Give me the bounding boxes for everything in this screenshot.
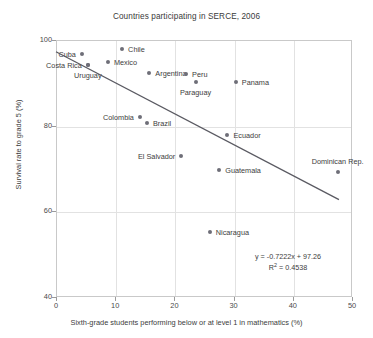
y-tick-label: 80 bbox=[0, 121, 52, 130]
x-tick-mark bbox=[352, 297, 353, 301]
regression-equation: y = -0.7222x + 97.26 bbox=[228, 252, 348, 262]
x-tick-mark bbox=[174, 297, 175, 301]
y-axis-label: Survival rate to grade 5 (%) bbox=[14, 65, 23, 225]
x-tick-mark bbox=[115, 297, 116, 301]
x-tick-label: 10 bbox=[100, 301, 130, 310]
r-squared-number: = 0.4538 bbox=[277, 264, 307, 273]
r-squared-value: R2 = 0.4538 bbox=[228, 262, 348, 274]
x-tick-mark bbox=[56, 297, 57, 301]
regression-annotation: y = -0.7222x + 97.26 R2 = 0.4538 bbox=[228, 252, 348, 274]
x-tick-label: 50 bbox=[337, 301, 367, 310]
chart-title: Countries participating in SERCE, 2006 bbox=[0, 12, 373, 21]
x-tick-label: 0 bbox=[41, 301, 71, 310]
y-tick-label: 100 bbox=[0, 35, 52, 44]
x-tick-label: 20 bbox=[159, 301, 189, 310]
x-tick-mark bbox=[234, 297, 235, 301]
chart-figure: Countries participating in SERCE, 2006 S… bbox=[0, 0, 373, 338]
y-tick-label: 60 bbox=[0, 206, 52, 215]
x-tick-mark bbox=[293, 297, 294, 301]
x-axis-label: Sixth-grade students performing below or… bbox=[0, 318, 373, 327]
x-tick-label: 40 bbox=[278, 301, 308, 310]
y-tick-label: 40 bbox=[0, 292, 52, 301]
x-tick-label: 30 bbox=[219, 301, 249, 310]
